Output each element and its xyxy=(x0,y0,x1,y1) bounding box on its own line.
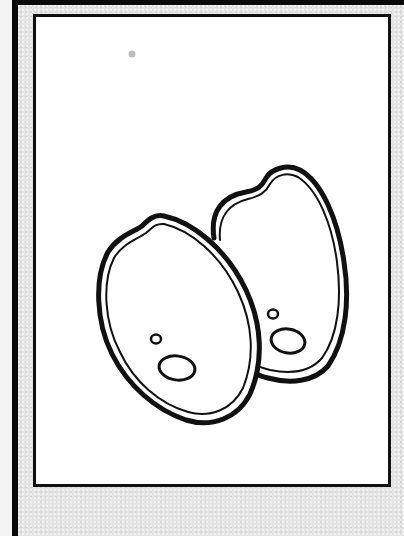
seeds-illustration xyxy=(0,0,404,536)
coloring-page xyxy=(0,0,404,536)
stray-dot xyxy=(129,51,136,58)
